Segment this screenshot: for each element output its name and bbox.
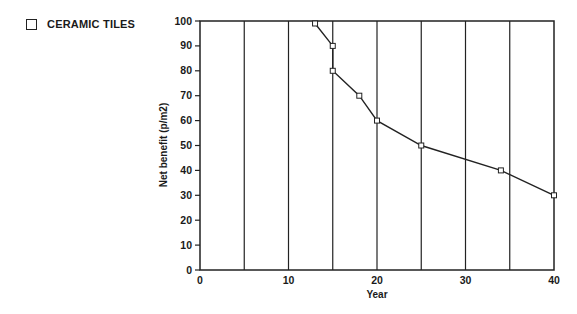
x-tick-label: 20: [371, 274, 383, 286]
x-axis-title: Year: [366, 289, 387, 300]
y-tick-label: 50: [180, 139, 192, 151]
x-tick-label: 10: [283, 274, 295, 286]
data-point-marker: [498, 168, 503, 173]
data-point-marker: [330, 68, 335, 73]
x-axis-ticks: 010203040: [197, 274, 560, 286]
y-axis-ticks: 0102030405060708090100: [174, 15, 200, 276]
series-line: [315, 23, 554, 195]
y-tick-label: 0: [186, 264, 192, 276]
y-tick-label: 100: [174, 15, 192, 27]
data-point-marker: [552, 193, 557, 198]
y-tick-label: 70: [180, 89, 192, 101]
data-point-marker: [419, 143, 424, 148]
y-tick-label: 10: [180, 239, 192, 251]
data-point-marker: [357, 93, 362, 98]
y-tick-label: 40: [180, 164, 192, 176]
x-tick-label: 40: [548, 274, 560, 286]
line-chart: 0102030405060708090100 010203040 Year Ne…: [0, 0, 577, 314]
y-tick-label: 60: [180, 114, 192, 126]
x-tick-label: 30: [460, 274, 472, 286]
y-tick-label: 90: [180, 39, 192, 51]
y-axis-title: Net benefit (p/m2): [158, 103, 169, 187]
data-point-marker: [330, 43, 335, 48]
vertical-gridlines: [244, 21, 510, 270]
y-tick-label: 30: [180, 189, 192, 201]
data-point-marker: [313, 21, 318, 26]
y-tick-label: 80: [180, 64, 192, 76]
x-tick-label: 0: [197, 274, 203, 286]
data-point-marker: [375, 118, 380, 123]
data-series: [313, 21, 557, 198]
y-tick-label: 20: [180, 214, 192, 226]
